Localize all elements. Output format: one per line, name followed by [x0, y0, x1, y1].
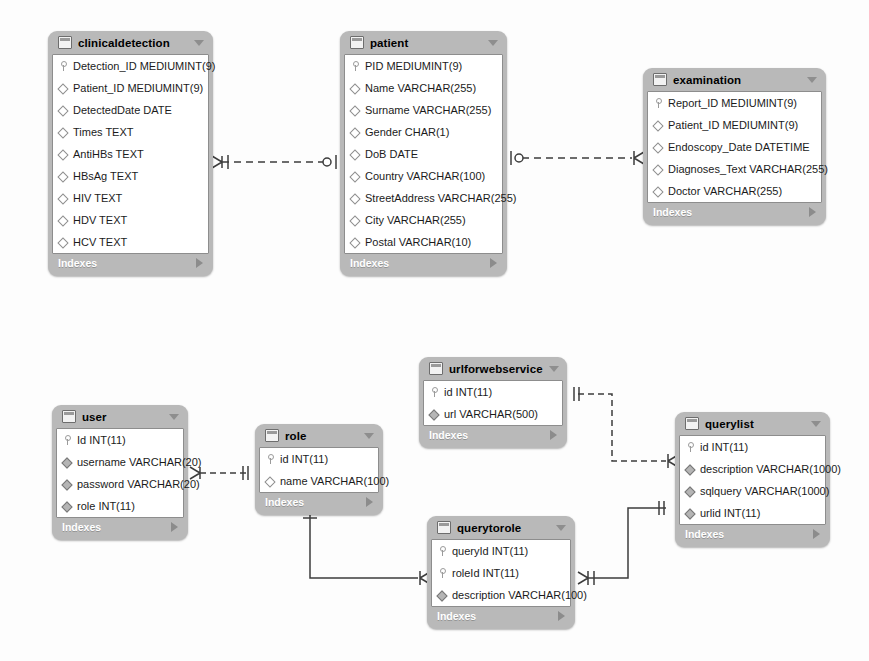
column-row[interactable]: Detection_ID MEDIUMINT(9)	[53, 55, 208, 77]
diamond-open-icon	[653, 185, 663, 197]
table-header[interactable]: examination	[647, 68, 822, 91]
column-row[interactable]: Gender CHAR(1)	[345, 121, 502, 143]
chevron-down-icon[interactable]	[194, 40, 204, 46]
column-row[interactable]: id INT(11)	[680, 436, 825, 458]
key-icon	[58, 60, 68, 72]
relationship-urlforwebservice-querylist	[574, 387, 678, 468]
chevron-down-icon[interactable]	[549, 366, 559, 372]
column-row[interactable]: Patient_ID MEDIUMINT(9)	[648, 114, 821, 136]
table-clinicaldetection[interactable]: clinicaldetectionDetection_ID MEDIUMINT(…	[48, 31, 213, 276]
column-row[interactable]: Postal VARCHAR(10)	[345, 231, 502, 253]
table-role[interactable]: roleid INT(11)name VARCHAR(100)Indexes	[255, 424, 383, 515]
column-row[interactable]: Doctor VARCHAR(255)	[648, 180, 821, 202]
chevron-right-icon[interactable]	[550, 430, 557, 440]
table-user[interactable]: userId INT(11)username VARCHAR(20)passwo…	[52, 405, 188, 540]
diamond-open-icon	[58, 104, 68, 116]
column-row[interactable]: id INT(11)	[424, 381, 562, 403]
indexes-section[interactable]: Indexes	[647, 203, 822, 221]
chevron-down-icon[interactable]	[169, 414, 179, 420]
column-row[interactable]: Patient_ID MEDIUMINT(9)	[53, 77, 208, 99]
chevron-down-icon[interactable]	[807, 77, 817, 83]
table-patient[interactable]: patientPID MEDIUMINT(9)Name VARCHAR(255)…	[340, 31, 507, 276]
chevron-right-icon[interactable]	[490, 258, 497, 268]
indexes-section[interactable]: Indexes	[679, 525, 826, 543]
key-icon	[437, 567, 447, 579]
table-urlforwebservice[interactable]: urlforwebserviceid INT(11)url VARCHAR(50…	[419, 357, 567, 448]
indexes-section[interactable]: Indexes	[431, 607, 571, 625]
relationship-role-querytorole	[303, 508, 430, 585]
table-header[interactable]: patient	[344, 31, 503, 54]
diamond-fill-icon	[429, 408, 439, 420]
chevron-down-icon[interactable]	[364, 433, 374, 439]
column-list: Id INT(11)username VARCHAR(20)password V…	[56, 428, 184, 518]
column-row[interactable]: DetectedDate DATE	[53, 99, 208, 121]
column-row[interactable]: Report_ID MEDIUMINT(9)	[648, 92, 821, 114]
column-row[interactable]: HDV TEXT	[53, 209, 208, 231]
column-row[interactable]: HCV TEXT	[53, 231, 208, 253]
diamond-open-icon	[58, 126, 68, 138]
chevron-right-icon[interactable]	[558, 611, 565, 621]
column-row[interactable]: Diagnoses_Text VARCHAR(255)	[648, 158, 821, 180]
column-row[interactable]: id INT(11)	[260, 448, 378, 470]
column-row[interactable]: urlid INT(11)	[680, 502, 825, 524]
column-row[interactable]: HIV TEXT	[53, 187, 208, 209]
column-row[interactable]: PID MEDIUMINT(9)	[345, 55, 502, 77]
indexes-section[interactable]: Indexes	[52, 254, 209, 272]
column-row[interactable]: Endoscopy_Date DATETIME	[648, 136, 821, 158]
table-header[interactable]: user	[56, 405, 184, 428]
column-row[interactable]: queryId INT(11)	[432, 540, 570, 562]
table-icon	[58, 36, 72, 49]
diamond-open-icon	[58, 82, 68, 94]
column-row[interactable]: StreetAddress VARCHAR(255)	[345, 187, 502, 209]
column-list: PID MEDIUMINT(9)Name VARCHAR(255)Surname…	[344, 54, 503, 254]
diamond-fill-icon	[685, 485, 695, 497]
indexes-section[interactable]: Indexes	[423, 426, 563, 444]
column-row[interactable]: name VARCHAR(100)	[260, 470, 378, 492]
table-header[interactable]: urlforwebservice	[423, 357, 563, 380]
column-list: id INT(11)url VARCHAR(500)	[423, 380, 563, 426]
column-row[interactable]: City VARCHAR(255)	[345, 209, 502, 231]
column-label: DetectedDate DATE	[73, 105, 172, 116]
column-row[interactable]: DoB DATE	[345, 143, 502, 165]
column-row[interactable]: Surname VARCHAR(255)	[345, 99, 502, 121]
table-header[interactable]: querytorole	[431, 516, 571, 539]
column-row[interactable]: description VARCHAR(100)	[432, 584, 570, 606]
column-row[interactable]: sqlquery VARCHAR(1000)	[680, 480, 825, 502]
chevron-right-icon[interactable]	[171, 522, 178, 532]
table-examination[interactable]: examinationReport_ID MEDIUMINT(9)Patient…	[643, 68, 826, 225]
column-row[interactable]: role INT(11)	[57, 495, 183, 517]
column-label: id INT(11)	[280, 454, 328, 465]
indexes-section[interactable]: Indexes	[259, 493, 379, 511]
chevron-right-icon[interactable]	[813, 529, 820, 539]
chevron-down-icon[interactable]	[811, 421, 821, 427]
chevron-right-icon[interactable]	[366, 497, 373, 507]
chevron-right-icon[interactable]	[196, 258, 203, 268]
table-header[interactable]: role	[259, 424, 379, 447]
column-row[interactable]: username VARCHAR(20)	[57, 451, 183, 473]
chevron-down-icon[interactable]	[556, 525, 566, 531]
chevron-down-icon[interactable]	[488, 40, 498, 46]
column-row[interactable]: Country VARCHAR(100)	[345, 165, 502, 187]
column-label: DoB DATE	[365, 149, 418, 160]
column-row[interactable]: password VARCHAR(20)	[57, 473, 183, 495]
indexes-section[interactable]: Indexes	[344, 254, 503, 272]
column-label: City VARCHAR(255)	[365, 215, 466, 226]
chevron-right-icon[interactable]	[809, 207, 816, 217]
column-row[interactable]: Id INT(11)	[57, 429, 183, 451]
table-header[interactable]: querylist	[679, 412, 826, 435]
column-row[interactable]: Name VARCHAR(255)	[345, 77, 502, 99]
column-row[interactable]: AntiHBs TEXT	[53, 143, 208, 165]
table-icon	[653, 73, 667, 86]
column-row[interactable]: HBsAg TEXT	[53, 165, 208, 187]
key-icon	[429, 386, 439, 398]
column-label: username VARCHAR(20)	[77, 457, 202, 468]
column-row[interactable]: description VARCHAR(1000)	[680, 458, 825, 480]
indexes-label: Indexes	[58, 257, 196, 269]
column-row[interactable]: roleId INT(11)	[432, 562, 570, 584]
table-header[interactable]: clinicaldetection	[52, 31, 209, 54]
column-row[interactable]: url VARCHAR(500)	[424, 403, 562, 425]
indexes-section[interactable]: Indexes	[56, 518, 184, 536]
table-querytorole[interactable]: querytorolequeryId INT(11)roleId INT(11)…	[427, 516, 575, 629]
column-row[interactable]: Times TEXT	[53, 121, 208, 143]
table-querylist[interactable]: querylistid INT(11)description VARCHAR(1…	[675, 412, 830, 547]
